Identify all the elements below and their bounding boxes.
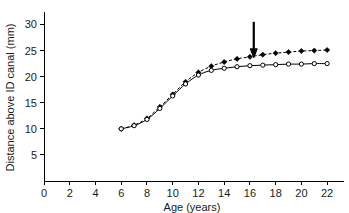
x-axis-title: Age (years) [164, 201, 221, 213]
x-tick-label: 12 [192, 187, 204, 199]
x-tick-label: 8 [144, 187, 150, 199]
y-tick-label: 5 [31, 149, 37, 161]
y-tick-label: 30 [25, 18, 37, 30]
line-chart: 510152025300246810121416182022Age (years… [0, 0, 349, 213]
data-point-marker [196, 73, 200, 77]
x-tick-label: 4 [92, 187, 98, 199]
x-tick-label: 0 [41, 187, 47, 199]
data-point-marker [261, 63, 265, 67]
y-axis-title: Distance above ID canal (mm) [4, 24, 16, 172]
x-tick-label: 14 [218, 187, 230, 199]
data-point-marker [299, 62, 303, 66]
x-tick-label: 18 [270, 187, 282, 199]
y-tick-label: 10 [25, 123, 37, 135]
data-point-marker [274, 63, 278, 67]
x-tick-label: 2 [67, 187, 73, 199]
x-tick-label: 16 [244, 187, 256, 199]
data-point-marker [247, 54, 252, 59]
data-point-marker [325, 61, 329, 65]
data-point-marker [286, 49, 291, 54]
data-point-marker [145, 117, 149, 121]
data-point-marker [222, 59, 227, 64]
data-point-marker [183, 82, 187, 86]
data-point-marker [312, 48, 317, 53]
data-point-marker [248, 64, 252, 68]
y-tick-label: 25 [25, 45, 37, 57]
data-point-marker [286, 62, 290, 66]
data-point-marker [222, 66, 226, 70]
y-tick-label: 15 [25, 97, 37, 109]
data-point-marker [171, 94, 175, 98]
data-point-marker [273, 51, 278, 56]
data-point-marker [234, 56, 239, 61]
data-point-marker [260, 52, 265, 57]
data-point-marker [235, 65, 239, 69]
chart-figure: 510152025300246810121416182022Age (years… [0, 0, 349, 213]
data-point-marker [209, 68, 213, 72]
data-point-marker [158, 106, 162, 110]
x-tick-label: 6 [118, 187, 124, 199]
y-tick-label: 20 [25, 71, 37, 83]
x-tick-label: 20 [295, 187, 307, 199]
data-point-marker [312, 61, 316, 65]
data-point-marker [132, 124, 136, 128]
data-point-marker [119, 127, 123, 131]
data-point-marker [325, 47, 330, 52]
data-point-marker [299, 48, 304, 53]
series-line [121, 64, 327, 129]
x-tick-label: 10 [167, 187, 179, 199]
x-tick-label: 22 [321, 187, 333, 199]
